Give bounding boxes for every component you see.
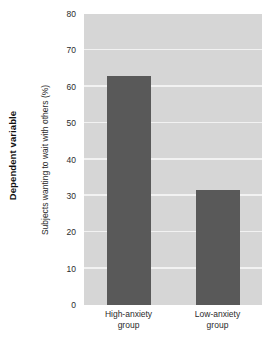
x-axis-category-labels: High-anxietygroupLow-anxietygroup — [84, 309, 262, 353]
y-axis-tick-label: 20 — [67, 227, 76, 237]
dependent-variable-label-text: Dependent variable — [8, 110, 19, 199]
bar — [196, 190, 240, 305]
y-axis-tick-label: 60 — [67, 82, 76, 92]
y-axis-title: Subjects wanting to wait with others (%) — [34, 14, 56, 306]
y-axis-tick-label: 50 — [67, 118, 76, 128]
x-axis-category-label: High-anxietygroup — [105, 309, 152, 331]
y-axis-title-text: Subjects wanting to wait with others (%) — [40, 85, 50, 235]
dependent-variable-label: Dependent variable — [0, 0, 26, 310]
x-axis-category-label-line: group — [195, 320, 240, 331]
y-axis-tick-label: 30 — [67, 191, 76, 201]
x-axis-category-label: Low-anxietygroup — [195, 309, 240, 331]
x-axis-category-label-line: High-anxiety — [105, 309, 152, 320]
y-axis-tick-label: 10 — [67, 264, 76, 274]
x-axis-category-label-line: group — [105, 320, 152, 331]
y-axis-tick-label: 70 — [67, 45, 76, 55]
bar — [107, 76, 151, 305]
y-axis-tick-label: 80 — [67, 9, 76, 19]
plot-area — [84, 14, 262, 305]
gridline — [84, 49, 262, 51]
y-axis-tick-label: 40 — [67, 155, 76, 165]
y-axis-tick-label: 0 — [71, 300, 76, 310]
x-axis-category-label-line: Low-anxiety — [195, 309, 240, 320]
y-axis-tick-labels: 01020304050607080 — [56, 14, 80, 305]
bar-chart-figure: Dependent variable Subjects wanting to w… — [0, 0, 268, 364]
